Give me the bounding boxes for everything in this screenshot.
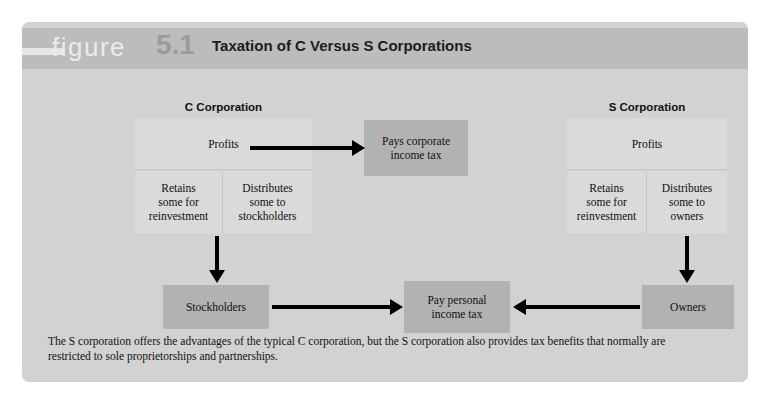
box-stockholders: Stockholders <box>163 285 269 329</box>
column-label-s-corporation: S Corporation <box>567 100 727 114</box>
column-label-c-corporation: C Corporation <box>135 100 312 114</box>
arrow-distributes-to-stockholders <box>215 236 219 272</box>
arrowhead-down-icon <box>679 270 695 283</box>
box-pay-personal-income-tax: Pay personalincome tax <box>404 281 510 333</box>
figure-panel: figure 5.1 Taxation of C Versus S Corpor… <box>22 22 748 382</box>
figure-caption: The S corporation offers the advantages … <box>48 334 688 364</box>
box-c-profits: Profits <box>135 118 312 170</box>
arrowhead-down-icon <box>209 270 225 283</box>
box-c-retains: Retainssome forreinvestment <box>135 171 223 233</box>
box-s-distributes: Distributessome toowners <box>647 171 727 233</box>
figure-word-label: figure <box>52 32 126 62</box>
box-s-retains: Retainssome forreinvestment <box>567 171 647 233</box>
box-c-distributes: Distributessome tostockholders <box>223 171 312 233</box>
arrowhead-left-icon <box>513 299 526 315</box>
arrow-stockholders-to-pay-personal <box>272 305 392 309</box>
box-pays-corporate-income-tax: Pays corporateincome tax <box>364 120 468 176</box>
figure-title: Taxation of C Versus S Corporations <box>212 35 472 57</box>
arrowhead-right-icon <box>352 140 365 156</box>
arrowhead-right-icon <box>390 299 403 315</box>
arrow-distributes-to-owners <box>685 236 689 272</box>
figure-number: 5.1 <box>156 29 195 61</box>
box-owners: Owners <box>642 285 734 329</box>
arrow-c-profits-to-pays-corporate <box>250 146 354 150</box>
box-s-profits: Profits <box>567 118 727 170</box>
arrow-owners-to-pay-personal <box>526 305 640 309</box>
